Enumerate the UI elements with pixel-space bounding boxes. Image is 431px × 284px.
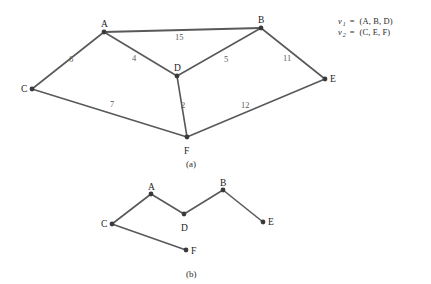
edge-weight-d-f: 2 bbox=[181, 101, 185, 110]
edge-weight-e-f: 12 bbox=[241, 101, 250, 110]
edge-b-e bbox=[223, 190, 263, 222]
edge-d-b bbox=[184, 190, 223, 214]
vertex-dot-a bbox=[102, 30, 107, 35]
caption-a: (a) bbox=[186, 160, 196, 169]
panel-a-edge-group bbox=[32, 28, 325, 137]
panel-b-edge-group bbox=[112, 190, 263, 250]
vertex-label-a: A bbox=[101, 20, 108, 30]
legend-equals-2: = bbox=[350, 27, 355, 37]
legend-row-v1: v1 = (A, B, D) bbox=[338, 16, 393, 27]
legend-equals-1: = bbox=[350, 16, 355, 26]
vertex-label-a: A bbox=[148, 183, 155, 193]
edge-a-d bbox=[151, 194, 184, 214]
edge-a-c bbox=[32, 32, 104, 89]
legend-var-subscript-2: 2 bbox=[343, 32, 346, 38]
vertex-dot-c bbox=[110, 222, 115, 227]
vertex-label-b: B bbox=[220, 179, 226, 189]
legend-row-v2: v2 = (C, E, F) bbox=[338, 27, 393, 38]
legend-var-subscript-1: 1 bbox=[343, 21, 346, 27]
vertex-dot-f bbox=[185, 135, 190, 140]
figure-page: 15645117212ABCDEF(a)ABCDEF(b) v1 = (A, B… bbox=[0, 0, 431, 284]
vertex-label-c: C bbox=[101, 220, 107, 230]
vertex-label-f: F bbox=[184, 147, 189, 157]
vertex-label-b: B bbox=[258, 16, 264, 26]
vertex-dot-b bbox=[259, 26, 264, 31]
vertex-dot-f bbox=[184, 248, 189, 253]
legend-set-2: (C, E, F) bbox=[360, 27, 391, 37]
caption-b: (b) bbox=[186, 270, 197, 279]
legend: v1 = (A, B, D) v2 = (C, E, F) bbox=[338, 16, 393, 38]
edge-weight-b-d: 5 bbox=[224, 55, 228, 64]
edge-b-d bbox=[177, 28, 261, 76]
edge-weight-b-e: 11 bbox=[283, 54, 291, 63]
edge-a-c bbox=[112, 194, 151, 224]
vertex-label-e: E bbox=[330, 75, 336, 85]
panel-b-vertex-group bbox=[110, 188, 266, 253]
edge-weight-a-b: 15 bbox=[175, 33, 184, 42]
vertex-label-e: E bbox=[268, 218, 274, 228]
edge-b-e bbox=[261, 28, 325, 79]
vertex-dot-c bbox=[30, 87, 35, 92]
legend-set-1: (A, B, D) bbox=[360, 16, 393, 26]
legend-var-name-1: v bbox=[338, 16, 342, 26]
edge-weight-c-f: 7 bbox=[110, 100, 114, 109]
vertex-label-c: C bbox=[21, 85, 27, 95]
edge-e-f bbox=[187, 79, 325, 137]
graph-canvas bbox=[0, 0, 431, 284]
edge-c-f bbox=[32, 89, 187, 137]
vertex-dot-d bbox=[182, 212, 187, 217]
vertex-label-d: D bbox=[174, 64, 181, 74]
vertex-label-f: F bbox=[191, 247, 196, 257]
edge-c-f bbox=[112, 224, 186, 250]
edge-weight-a-d: 4 bbox=[132, 54, 136, 63]
edge-weight-a-c: 6 bbox=[69, 55, 73, 64]
vertex-dot-e bbox=[323, 77, 328, 82]
edge-a-d bbox=[104, 32, 177, 76]
legend-var-name-2: v bbox=[338, 27, 342, 37]
vertex-dot-e bbox=[261, 220, 266, 225]
vertex-label-d: D bbox=[181, 224, 188, 234]
vertex-dot-d bbox=[175, 74, 180, 79]
